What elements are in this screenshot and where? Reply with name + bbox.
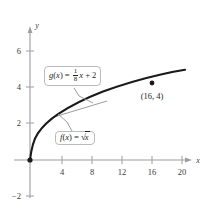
- x-axis-arrowhead: [185, 158, 192, 163]
- g-fraction-numerator: 1: [73, 68, 79, 75]
- g-plus-two: + 2: [85, 70, 96, 80]
- origin-point-marker: [27, 157, 32, 162]
- f-equals: =: [74, 132, 79, 142]
- x-tick-label-4: 4: [60, 167, 65, 177]
- g-line-series: [54, 101, 107, 117]
- x-tick-label-12: 12: [118, 167, 127, 177]
- x-tick-label-16: 16: [148, 167, 157, 177]
- f-callout-leader: [58, 114, 72, 131]
- g-equals: =: [65, 70, 70, 80]
- x-axis-label: x: [195, 156, 200, 165]
- g-fraction-one-eighth: 1 8: [73, 68, 79, 83]
- y-tick-label-2: 2: [17, 118, 21, 128]
- f-paren-close: ): [69, 132, 72, 142]
- graph-canvas: 4 8 12 16 20 6 4 2 −2 y x (16, 4): [0, 0, 207, 217]
- x-tick-label-8: 8: [90, 167, 94, 177]
- y-tick-label-6: 6: [17, 46, 21, 56]
- g-fraction-denominator: 8: [73, 75, 79, 83]
- figure-root: 4 8 12 16 20 6 4 2 −2 y x (16, 4) g(x) =…: [0, 0, 207, 217]
- f-sqrt-expression: √x: [81, 133, 90, 142]
- y-axis-arrowhead: [28, 26, 33, 33]
- x-tick-label-20: 20: [178, 167, 187, 177]
- point-16-4-marker: [150, 81, 155, 86]
- f-sqrt-argument: x: [85, 131, 90, 142]
- g-paren-close: ): [60, 70, 63, 80]
- g-function-callout: g(x) = 1 8 x + 2: [44, 66, 101, 86]
- g-x-term: x: [79, 70, 83, 80]
- point-16-4-label: (16, 4): [141, 91, 164, 101]
- y-axis-label: y: [34, 21, 39, 30]
- y-tick-label-neg2: −2: [12, 191, 21, 201]
- y-tick-label-4: 4: [17, 82, 22, 92]
- f-function-callout: f(x) = √x: [55, 131, 95, 145]
